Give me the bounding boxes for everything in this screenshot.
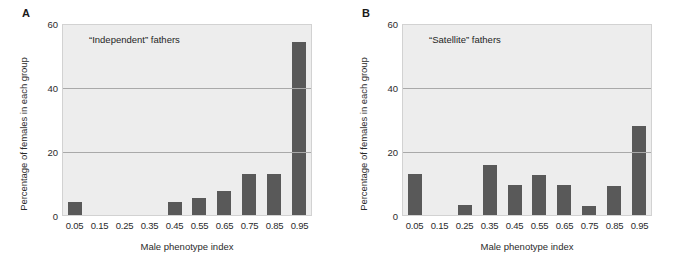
- x-tick-label: 0.45: [162, 220, 187, 231]
- bar-cell: [187, 25, 212, 215]
- bar: [557, 185, 571, 215]
- x-tick-label: 0.95: [287, 220, 312, 231]
- bar-cell: [428, 25, 453, 215]
- bar-cell: [453, 25, 478, 215]
- x-tick-label: 0.25: [452, 220, 477, 231]
- panel-b-x-ticks: 0.050.150.250.350.450.550.650.750.850.95: [402, 220, 652, 231]
- bar: [292, 42, 306, 215]
- x-tick-label: 0.95: [627, 220, 652, 231]
- bar-cell: [577, 25, 602, 215]
- x-tick-label: 0.85: [602, 220, 627, 231]
- bar-cell: [527, 25, 552, 215]
- bar-cell: [137, 25, 162, 215]
- panel-b-gridline-40: [403, 88, 651, 89]
- bar: [192, 198, 206, 215]
- bar-cell: [626, 25, 651, 215]
- bar-cell: [552, 25, 577, 215]
- bar-cell: [477, 25, 502, 215]
- bar-cell: [237, 25, 262, 215]
- x-tick-label: 0.05: [62, 220, 87, 231]
- panel-b-y-tick-60: 60: [387, 19, 398, 30]
- x-tick-label: 0.25: [112, 220, 137, 231]
- bar: [68, 202, 82, 215]
- bar: [632, 126, 646, 215]
- bar: [217, 191, 231, 215]
- bar-cell: [261, 25, 286, 215]
- x-tick-label: 0.65: [552, 220, 577, 231]
- figure-root: A Percentage of females in each group 02…: [0, 0, 681, 276]
- x-tick-label: 0.15: [87, 220, 112, 231]
- bar: [483, 165, 497, 215]
- x-tick-label: 0.85: [262, 220, 287, 231]
- panel-b-y-tick-40: 40: [387, 83, 398, 94]
- panel-a-x-axis-label: Male phenotype index: [62, 241, 312, 252]
- panel-b-x-axis-label: Male phenotype index: [402, 241, 652, 252]
- x-tick-label: 0.55: [527, 220, 552, 231]
- panel-a-bars: [63, 25, 311, 215]
- bar: [582, 206, 596, 215]
- bar-cell: [88, 25, 113, 215]
- bar: [508, 185, 522, 215]
- x-tick-label: 0.75: [577, 220, 602, 231]
- x-tick-label: 0.75: [237, 220, 262, 231]
- bar-cell: [502, 25, 527, 215]
- bar-cell: [601, 25, 626, 215]
- panel-a-gridline-40: [63, 88, 311, 89]
- panel-a-gridline-20: [63, 152, 311, 153]
- panel-b-y-tick-20: 20: [387, 147, 398, 158]
- x-tick-label: 0.65: [212, 220, 237, 231]
- bar: [168, 202, 182, 215]
- bar: [532, 175, 546, 215]
- bar-cell: [63, 25, 88, 215]
- panel-a-y-ticks: 0204060: [30, 24, 58, 216]
- bar: [458, 205, 472, 215]
- panel-b-bars: [403, 25, 651, 215]
- x-tick-label: 0.35: [137, 220, 162, 231]
- x-tick-label: 0.05: [402, 220, 427, 231]
- x-tick-label: 0.35: [477, 220, 502, 231]
- panel-a-y-tick-40: 40: [47, 83, 58, 94]
- bar: [267, 174, 281, 215]
- bar: [408, 174, 422, 215]
- panel-b: B Percentage of females in each group 02…: [340, 0, 680, 276]
- bar-cell: [286, 25, 311, 215]
- panel-a-y-tick-20: 20: [47, 147, 58, 158]
- bar-cell: [212, 25, 237, 215]
- x-tick-label: 0.45: [502, 220, 527, 231]
- panel-b-y-ticks: 0204060: [370, 24, 398, 216]
- bar-cell: [113, 25, 138, 215]
- panel-b-gridline-20: [403, 152, 651, 153]
- x-tick-label: 0.15: [427, 220, 452, 231]
- bar: [242, 174, 256, 215]
- panel-a: A Percentage of females in each group 02…: [0, 0, 340, 276]
- panel-a-y-tick-0: 0: [53, 211, 58, 222]
- panel-a-x-ticks: 0.050.150.250.350.450.550.650.750.850.95: [62, 220, 312, 231]
- panel-a-letter: A: [22, 7, 30, 19]
- panel-b-plot-area: “Satellite” fathers: [402, 24, 652, 216]
- x-tick-label: 0.55: [187, 220, 212, 231]
- bar: [607, 186, 621, 215]
- bar-cell: [162, 25, 187, 215]
- panel-b-letter: B: [362, 7, 370, 19]
- panel-b-y-tick-0: 0: [393, 211, 398, 222]
- bar-cell: [403, 25, 428, 215]
- panel-a-plot-area: “Independent” fathers: [62, 24, 312, 216]
- panel-a-y-tick-60: 60: [47, 19, 58, 30]
